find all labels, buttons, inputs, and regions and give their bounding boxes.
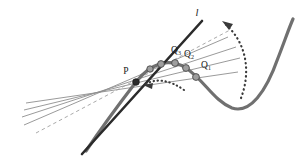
tangent-secant-diagram: l P Q 3 Q 2 Q 1 [0,0,302,165]
point-q0-marker [193,74,200,81]
q3-label-base: Q [171,45,178,55]
point-p-marker [133,79,140,86]
point-q3-marker [158,61,165,68]
tangent-line-label: l [196,7,199,18]
point-q1-marker [183,65,190,72]
q1-label-subscript: 1 [208,65,211,71]
q2-label-base: Q [184,49,191,59]
q2-label-subscript: 2 [191,54,194,60]
q3-label-subscript: 3 [178,50,181,56]
diagram-canvas: l P Q 3 Q 2 Q 1 [0,0,302,165]
q1-label-base: Q [201,60,208,70]
point-q4-marker [147,66,153,72]
point-q2-marker [172,60,179,67]
point-p-label: P [123,66,128,76]
